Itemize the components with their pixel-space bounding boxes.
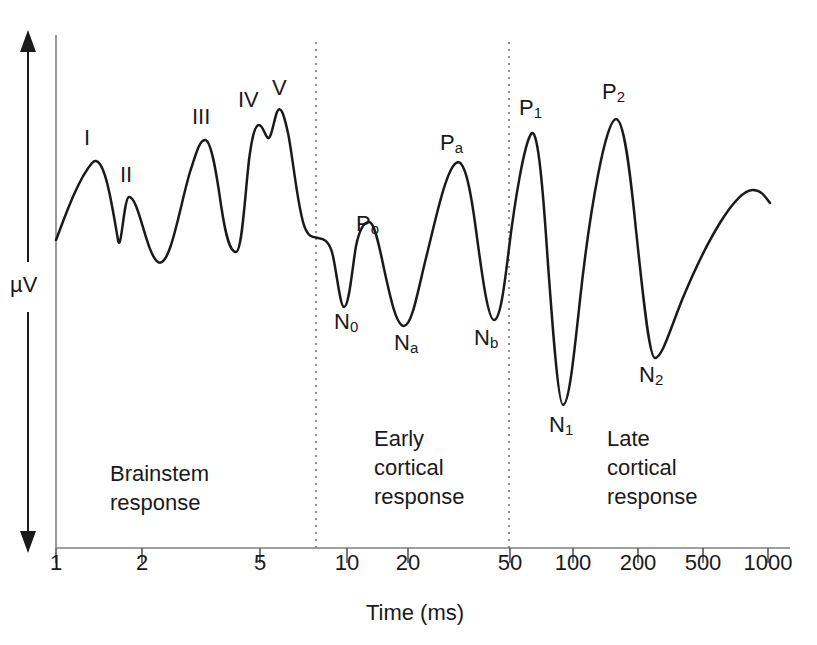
region-label-late-line2: cortical xyxy=(607,453,698,482)
region-label-late-line1: Late xyxy=(607,424,698,453)
x-tick-label-500: 500 xyxy=(685,551,722,574)
peak-label-pa-sub: a xyxy=(455,139,463,156)
peak-label-p1-base: P xyxy=(519,95,534,120)
region-label-early-line3: response xyxy=(374,482,465,511)
region-label-early-line1: Early xyxy=(374,424,465,453)
x-tick-label-50: 50 xyxy=(498,551,522,574)
peak-label-n1: N1 xyxy=(549,413,573,438)
peak-label-p1-sub: 1 xyxy=(534,104,542,121)
peak-label-n0-base: N xyxy=(334,309,350,334)
region-label-early-line2: cortical xyxy=(374,453,465,482)
region-label-late-cortical: Late cortical response xyxy=(607,424,698,511)
x-tick-label-20: 20 xyxy=(396,551,420,574)
peak-label-pa-base: P xyxy=(440,130,455,155)
x-tick-label-200: 200 xyxy=(620,551,657,574)
peak-label-n1-base: N xyxy=(549,412,565,437)
peak-label-n2-sub: 2 xyxy=(655,371,663,388)
x-tick-label-10: 10 xyxy=(335,551,359,574)
peak-label-n2-base: N xyxy=(639,362,655,387)
peak-label-na-base: N xyxy=(394,330,410,355)
peak-label-n0-sub: 0 xyxy=(350,318,358,335)
peak-label-wave-iii: III xyxy=(192,105,210,128)
peak-label-po-base: P xyxy=(356,211,371,236)
peak-label-na: Na xyxy=(394,331,418,356)
evoked-potential-trace xyxy=(56,109,770,405)
peak-label-wave-iv: IV xyxy=(238,88,259,111)
peak-label-nb-base: N xyxy=(474,325,490,350)
peak-label-wave-i: I xyxy=(84,126,90,149)
peak-label-nb: Nb xyxy=(474,326,498,351)
region-label-brainstem-line1: Brainstem xyxy=(110,459,209,488)
peak-label-po: Po xyxy=(356,212,379,237)
x-tick-label-1: 1 xyxy=(50,551,62,574)
x-tick-label-1000: 1000 xyxy=(744,551,793,574)
region-label-early-cortical: Early cortical response xyxy=(374,424,465,511)
peak-label-n1-sub: 1 xyxy=(565,421,573,438)
plot-area xyxy=(0,0,817,645)
y-axis-unit-label: µV xyxy=(10,273,37,296)
x-tick-label-100: 100 xyxy=(555,551,592,574)
peak-label-po-sub: o xyxy=(371,220,379,237)
peak-label-wave-ii: II xyxy=(120,163,132,186)
peak-label-n2: N2 xyxy=(639,363,663,388)
peak-label-n0: N0 xyxy=(334,310,358,335)
peak-label-nb-sub: b xyxy=(490,334,498,351)
peak-label-na-sub: a xyxy=(410,339,418,356)
auditory-evoked-potential-figure: µV Time (ms) 1 2 5 10 20 50 100 200 500 … xyxy=(0,0,817,645)
peak-label-p1: P1 xyxy=(519,96,542,121)
peak-label-p2: P2 xyxy=(602,80,625,105)
peak-label-pa: Pa xyxy=(440,131,463,156)
peak-label-wave-v: V xyxy=(272,76,287,99)
x-tick-label-2: 2 xyxy=(136,551,148,574)
peak-label-p2-sub: 2 xyxy=(617,88,625,105)
region-label-brainstem-line2: response xyxy=(110,488,209,517)
peak-label-p2-base: P xyxy=(602,79,617,104)
x-axis-title: Time (ms) xyxy=(366,601,464,624)
region-label-brainstem: Brainstem response xyxy=(110,459,209,517)
x-tick-label-5: 5 xyxy=(254,551,266,574)
region-label-late-line3: response xyxy=(607,482,698,511)
